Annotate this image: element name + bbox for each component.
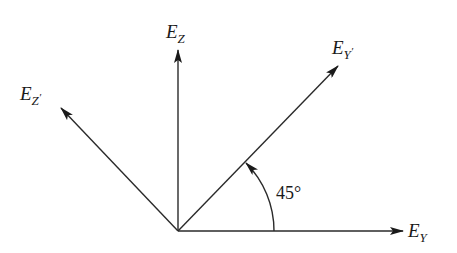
- vector-ey-prime: [178, 66, 338, 231]
- label-ey-prime: EY′: [331, 37, 354, 62]
- vector-ez-prime: [61, 108, 178, 231]
- vector-diagram: EZ EY′ EZ′ EY 45°: [0, 0, 457, 253]
- label-ey: EY: [407, 220, 429, 245]
- angle-label: 45°: [276, 183, 301, 203]
- label-ez-prime: EZ′: [19, 83, 42, 108]
- angle-arc: [246, 163, 274, 231]
- label-ez: EZ: [165, 21, 186, 46]
